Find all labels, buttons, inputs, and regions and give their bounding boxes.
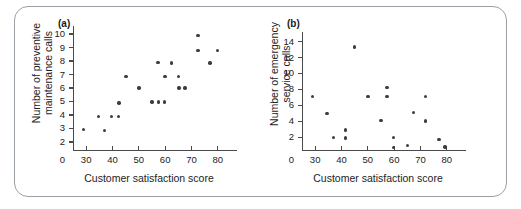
panel-b-x-tick xyxy=(420,146,421,150)
panel-b-y-axis-title-line1: Number of emergency xyxy=(269,0,281,148)
panel-a-y-tick xyxy=(69,141,73,142)
panel-a-y-axis-title: Number of preventive maintenance calls xyxy=(31,0,54,150)
data-point xyxy=(196,34,199,37)
data-point xyxy=(311,95,314,98)
panel-a-x-tick xyxy=(86,146,87,150)
panel-b-y-tick xyxy=(298,105,302,106)
panel-a-y-tick xyxy=(69,87,73,88)
panel-b-y-tick xyxy=(298,57,302,58)
panel-a-y-tick xyxy=(69,47,73,48)
data-point xyxy=(379,119,382,122)
data-point xyxy=(82,128,85,131)
panel-b-x-tick-label: 50 xyxy=(356,154,380,165)
panel-a-y-tick xyxy=(69,128,73,129)
panel-b-y-axis-title-line2: service calls xyxy=(281,0,293,148)
data-point xyxy=(150,100,153,103)
panel-a-y-axis-title-line1: Number of preventive xyxy=(31,0,43,150)
panel-a-y-tick xyxy=(69,101,73,102)
panel-a-x-tick xyxy=(138,146,139,150)
panel-b-x-tick xyxy=(367,146,368,150)
panel-b-y-axis-title: Number of emergency service calls xyxy=(269,0,292,148)
panel-b-y-tick xyxy=(298,73,302,74)
panel-a-plot-area: 23456789100304050607080 xyxy=(73,26,231,150)
data-point xyxy=(156,61,159,64)
panel-b-x-tick-label: 30 xyxy=(303,154,327,165)
panel-a-x-tick-label: 80 xyxy=(206,154,230,165)
data-point xyxy=(344,136,347,139)
data-point xyxy=(412,111,415,114)
panel-a-x-tick-label: 70 xyxy=(180,154,204,165)
panel-b-x-tick-label: 40 xyxy=(330,154,354,165)
data-point xyxy=(385,95,388,98)
panel-b-plot-area: 24681012140304050607080 xyxy=(302,32,460,150)
data-point xyxy=(208,61,211,64)
data-point xyxy=(124,75,127,78)
data-point xyxy=(97,115,100,118)
data-point xyxy=(424,95,427,98)
data-point xyxy=(177,75,180,78)
data-point xyxy=(110,115,113,118)
panel-b-x-tick xyxy=(315,146,316,150)
data-point xyxy=(216,49,219,52)
panel-b-x-tick-label: 60 xyxy=(382,154,406,165)
panel-a-x-tick-label: 30 xyxy=(74,154,98,165)
panel-b-y-axis-line xyxy=(302,32,303,151)
panel-a-y-tick xyxy=(69,33,73,34)
panel-a-x-tick xyxy=(191,146,192,150)
panel-a-y-tick xyxy=(69,60,73,61)
panel-b-x-axis-title: Customer satisfaction score xyxy=(273,172,483,184)
data-point xyxy=(183,86,186,89)
panel-a-y-axis-title-line2: maintenance calls xyxy=(43,0,55,150)
data-point xyxy=(353,45,356,48)
panel-a-x-tick-label: 50 xyxy=(127,154,151,165)
data-point xyxy=(392,136,395,139)
data-point xyxy=(325,112,328,115)
data-point xyxy=(137,86,140,89)
panel-b-y-tick xyxy=(298,121,302,122)
panel-a-x-axis-line xyxy=(73,150,237,151)
data-point xyxy=(385,86,388,89)
data-point xyxy=(103,129,106,132)
panel-a-y-axis-line xyxy=(73,26,74,151)
panel-b-y-tick xyxy=(298,41,302,42)
panel-a-y-tick xyxy=(69,114,73,115)
panel-a-x-axis-title: Customer satisfaction score xyxy=(44,172,254,184)
data-point xyxy=(366,95,369,98)
data-point xyxy=(117,101,120,104)
panel-b: (b) 24681012140304050607080 Number of em… xyxy=(255,0,507,191)
panel-a-y-tick xyxy=(69,74,73,75)
panel-b-y-origin-label: 0 xyxy=(272,154,294,165)
panel-b-x-tick-label: 80 xyxy=(435,154,459,165)
data-point xyxy=(170,61,173,64)
panel-a-x-tick xyxy=(112,146,113,150)
data-point xyxy=(406,144,409,147)
panel-a-x-tick-label: 60 xyxy=(153,154,177,165)
data-point xyxy=(392,146,395,149)
panel-a-x-tick xyxy=(217,146,218,150)
panel-b-y-tick xyxy=(298,137,302,138)
panel-a-y-origin-label: 0 xyxy=(43,154,65,165)
data-point xyxy=(117,115,120,118)
panel-a-x-tick-label: 40 xyxy=(101,154,125,165)
panel-b-x-tick-label: 70 xyxy=(409,154,433,165)
figure-root: (a) 23456789100304050607080 Number of pr… xyxy=(0,0,521,209)
data-point xyxy=(437,138,440,141)
data-point xyxy=(424,119,427,122)
data-point xyxy=(163,75,166,78)
panel-a-x-tick xyxy=(165,146,166,150)
data-point xyxy=(196,49,199,52)
data-point xyxy=(443,145,446,148)
data-point xyxy=(157,100,160,103)
panel-a: (a) 23456789100304050607080 Number of pr… xyxy=(14,0,269,191)
data-point xyxy=(177,86,180,89)
data-point xyxy=(163,100,166,103)
panel-b-x-tick xyxy=(341,146,342,150)
data-point xyxy=(344,128,347,131)
panel-b-x-axis-line xyxy=(302,150,466,151)
panel-b-y-tick xyxy=(298,89,302,90)
data-point xyxy=(332,136,335,139)
